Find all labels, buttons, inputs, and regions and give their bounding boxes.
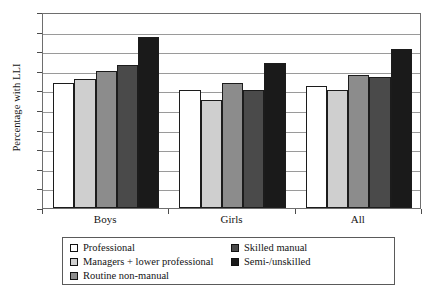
x-tick-label: Girls bbox=[221, 213, 243, 225]
legend-swatch bbox=[70, 258, 78, 266]
legend-item[interactable]: Managers + lower professional bbox=[70, 255, 231, 269]
legend-label: Routine non-manual bbox=[83, 270, 169, 282]
x-tick-label: All bbox=[351, 213, 365, 225]
gridline bbox=[43, 53, 420, 54]
legend-label: Skilled manual bbox=[244, 242, 307, 254]
bar bbox=[327, 90, 348, 208]
x-tick-mark bbox=[295, 209, 296, 214]
legend-items: ProfessionalManagers + lower professiona… bbox=[70, 241, 392, 283]
legend-label: Professional bbox=[83, 242, 135, 254]
bar bbox=[264, 63, 285, 208]
bar bbox=[138, 37, 159, 209]
legend-swatch bbox=[231, 258, 239, 266]
bar bbox=[96, 71, 117, 208]
bar bbox=[179, 90, 200, 208]
bar bbox=[391, 49, 412, 208]
y-axis-title: Percentage with LLI bbox=[11, 8, 22, 208]
legend-item[interactable]: Routine non-manual bbox=[70, 269, 231, 283]
chart-figure: Percentage with LLI 012345678910 BoysGir… bbox=[0, 0, 434, 291]
bar bbox=[243, 90, 264, 208]
bar bbox=[222, 83, 243, 208]
x-tick-mark bbox=[421, 209, 422, 214]
bar bbox=[74, 79, 95, 208]
bar bbox=[348, 75, 369, 208]
legend-item[interactable]: Skilled manual bbox=[231, 241, 392, 255]
legend-swatch bbox=[70, 244, 78, 252]
legend-swatch bbox=[231, 244, 239, 252]
legend-label: Managers + lower professional bbox=[83, 256, 213, 268]
bar bbox=[369, 77, 390, 208]
legend-item[interactable]: Professional bbox=[70, 241, 231, 255]
legend-label: Semi-/unskilled bbox=[244, 256, 311, 268]
bar bbox=[53, 83, 74, 208]
plot-area bbox=[42, 13, 421, 209]
bar bbox=[306, 86, 327, 208]
x-tick-mark bbox=[168, 209, 169, 214]
legend: ProfessionalManagers + lower professiona… bbox=[62, 237, 395, 285]
bar bbox=[117, 65, 138, 208]
bar bbox=[201, 100, 222, 208]
x-tick-label: Boys bbox=[94, 213, 117, 225]
legend-item[interactable]: Semi-/unskilled bbox=[231, 255, 392, 269]
x-tick-mark bbox=[42, 209, 43, 214]
legend-swatch bbox=[70, 272, 78, 280]
gridline bbox=[43, 34, 420, 35]
